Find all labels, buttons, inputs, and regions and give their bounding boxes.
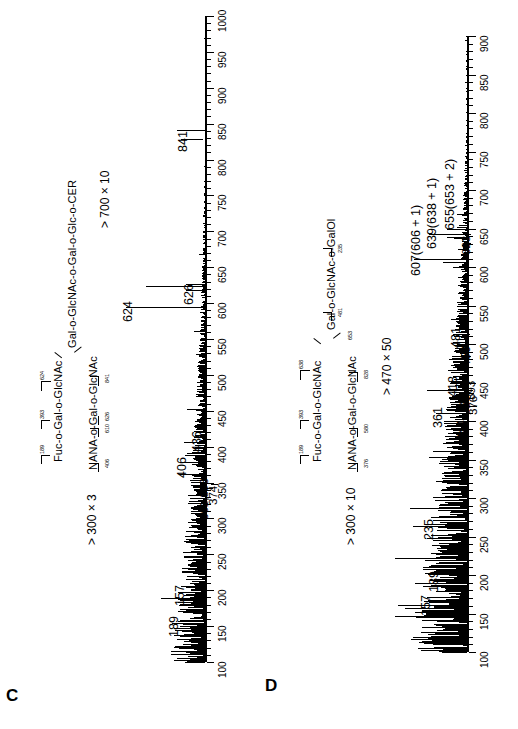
axis-tick-minor (469, 583, 473, 584)
axis-tick-label: 850 (217, 123, 228, 140)
axis-tick-label: 550 (479, 305, 490, 322)
spectrum-peak (200, 350, 205, 351)
spectrum-peak (466, 112, 467, 113)
spectrum-peak (203, 287, 205, 288)
axis-tick-minor (469, 159, 473, 160)
axis-tick-minor (207, 533, 211, 534)
axis-tick-minor (469, 644, 473, 645)
axis-tick (207, 375, 214, 376)
spectrum-peak (456, 416, 467, 417)
axis-tick (469, 190, 476, 191)
axis-tick-minor (469, 98, 473, 99)
spectrum-peak (203, 379, 205, 380)
panel-letter-c: C (6, 686, 18, 706)
spectrum-peak (204, 434, 205, 435)
axis-tick-minor (469, 467, 473, 468)
cleavage-mark (357, 372, 358, 382)
axis-tick-minor (469, 275, 473, 276)
axis-tick-label: 200 (217, 590, 228, 607)
axis-tick-minor (469, 637, 473, 638)
spectrum-peak (439, 562, 467, 563)
spectrum-peak (434, 624, 467, 625)
axis-tick-label: 750 (217, 195, 228, 212)
spectrum-peak (464, 624, 467, 625)
spectrum-peak (465, 40, 467, 41)
scale-note-c-1: > 300 × 3 (85, 494, 99, 545)
cleavage-mark (41, 381, 42, 391)
spectrum-peak (466, 51, 467, 52)
branch-connector-upper-d (313, 338, 321, 344)
peak-leader (126, 307, 202, 308)
cleavage-mark (41, 420, 42, 429)
axis-tick-minor (207, 224, 211, 225)
spectrum-peak (204, 223, 205, 224)
axis-tick-minor (207, 425, 211, 426)
spectrum-peak (184, 634, 205, 635)
axis-tick-minor (207, 640, 211, 641)
spectrum-peak (204, 211, 205, 212)
axis-tick-minor (207, 131, 211, 132)
axis-tick-label: 250 (479, 536, 490, 553)
axis-tick-minor (207, 253, 211, 254)
axis-tick-minor (207, 45, 211, 46)
axis-tick-minor (207, 605, 211, 606)
spectrum-peak (457, 306, 467, 307)
peak-leader (450, 383, 469, 384)
cleavage-number: 626 (104, 412, 110, 421)
axis-tick-minor (207, 404, 211, 405)
axis-tick-label: 500 (217, 374, 228, 391)
axis-tick (207, 195, 214, 196)
spectrum-peak (192, 581, 205, 582)
axis-tick-label: 700 (217, 231, 228, 248)
cleavage-mark (41, 455, 42, 464)
axis-tick (207, 52, 214, 53)
spectrum-peak (466, 60, 467, 61)
peak-label: 655(653 + 2) (443, 159, 457, 230)
spectrum-peak (466, 152, 467, 153)
cleavage-number: 235 (337, 244, 343, 253)
spectrum-peak (466, 140, 467, 141)
axis-tick-minor (469, 560, 473, 561)
peak-label: 406 (175, 457, 189, 478)
axis-tick-label: 350 (479, 459, 490, 476)
axis-tick-minor (469, 105, 473, 106)
spectrum-peak (464, 198, 467, 199)
peak-leader (470, 406, 477, 407)
panel-d: D Gal-o-GlcNAc-o-GalOl Fuc-o-Gal-o-GlcNA… (259, 0, 518, 729)
peak-label: 157 (419, 595, 433, 616)
peak-label: 189 (427, 571, 441, 592)
spectrum-peak (466, 61, 467, 62)
axis-tick-minor (207, 396, 211, 397)
peak-leader (461, 400, 469, 401)
axis-tick-minor (207, 583, 211, 584)
spectrum-peak (466, 141, 467, 142)
spectrum-peak (466, 125, 467, 126)
cleavage-number: 406 (104, 459, 110, 468)
axis-tick-minor (207, 526, 211, 527)
spectrum-peak (466, 104, 467, 105)
spectrum-peak (204, 225, 205, 226)
peak-leader (414, 259, 471, 260)
peak-label: 374 (207, 486, 219, 505)
spectrum-peak (192, 452, 205, 453)
spectrum-peak (186, 542, 205, 543)
peak-label: 157 (173, 585, 187, 606)
spectrum-peak (466, 68, 467, 69)
spectrum-peak (204, 294, 205, 295)
cleavage-number: 393 (39, 410, 45, 419)
spectrum-peak (434, 647, 467, 648)
axis-tick (207, 231, 214, 232)
cleavage-mark (98, 463, 99, 472)
spectrum-peak (459, 499, 467, 500)
axis-tick (207, 88, 214, 89)
cleavage-mark (331, 248, 332, 257)
axis-tick-minor (469, 221, 473, 222)
spectrum-peak (463, 222, 467, 223)
axis-tick-minor (469, 475, 473, 476)
axis-tick (207, 339, 214, 340)
cleavage-number: 653 (347, 331, 353, 340)
spectrum-peak (462, 225, 467, 226)
axis-tick-label: 450 (217, 410, 228, 427)
spectrum-peak (465, 172, 467, 173)
cleavage-mark (300, 455, 309, 456)
